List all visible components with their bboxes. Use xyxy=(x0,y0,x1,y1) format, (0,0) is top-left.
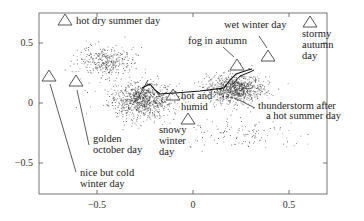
triangle-icon xyxy=(230,59,244,70)
label-nice-cold-1: nice but cold xyxy=(80,167,135,178)
triangle-icon xyxy=(58,14,72,25)
label-snowy-3: day xyxy=(159,146,175,157)
scatter-chart: 0.5 0 −0.5 −0.5 0 0.5 hot dry summer day… xyxy=(0,0,364,221)
label-hot-humid-2: humid xyxy=(181,101,209,112)
triangle-icon xyxy=(261,50,275,61)
label-golden-october-1: golden xyxy=(93,133,122,144)
x-tick-0: 0 xyxy=(191,199,196,210)
label-hot-dry-summer-day: hot dry summer day xyxy=(76,15,161,26)
label-wet-winter-day: wet winter day xyxy=(224,19,287,30)
y-tick-neg0.5: −0.5 xyxy=(15,157,33,168)
label-thunderstorm-2: a hot summer day xyxy=(266,110,342,121)
x-axis-labels: −0.5 0 0.5 xyxy=(88,199,295,210)
label-stormy-3: day xyxy=(302,50,318,61)
label-snowy-1: snowy xyxy=(159,124,187,135)
label-fog-in-autumn: fog in autumn xyxy=(188,35,248,46)
label-stormy-2: autumn xyxy=(302,39,334,50)
y-tick-0: 0 xyxy=(28,97,33,108)
label-hot-humid-1: hot and xyxy=(181,90,213,101)
y-axis-labels: 0.5 0 −0.5 xyxy=(15,37,33,168)
y-tick-0.5: 0.5 xyxy=(21,37,34,48)
triangle-icon xyxy=(42,70,56,81)
label-snowy-2: winter xyxy=(159,135,186,146)
x-tick-neg0.5: −0.5 xyxy=(88,199,106,210)
label-golden-october-2: october day xyxy=(93,144,143,155)
x-tick-0.5: 0.5 xyxy=(283,199,296,210)
label-stormy-1: stormy xyxy=(302,28,332,39)
triangle-icon xyxy=(69,75,83,86)
triangle-icon xyxy=(303,16,317,27)
label-nice-cold-2: winter day xyxy=(80,178,125,189)
triangle-icon xyxy=(181,113,195,124)
trajectory-stroke xyxy=(138,80,148,98)
